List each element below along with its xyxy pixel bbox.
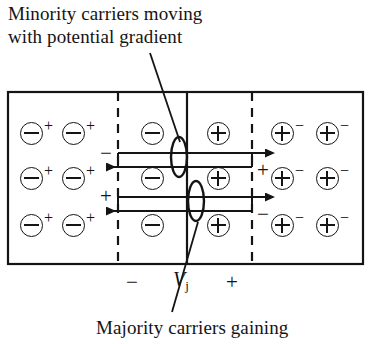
majority-leader-line — [172, 222, 198, 312]
acceptor-ion-r2c2: + — [62, 167, 94, 190]
charge-superscript: + — [86, 121, 95, 131]
bias-minus-label: − — [126, 272, 138, 293]
charge-superscript: − — [295, 121, 304, 131]
junction-voltage-subscript: j — [185, 278, 189, 293]
donor-ion-r2c2: − — [316, 167, 348, 190]
minority-carrier-highlight-ellipse — [171, 137, 187, 177]
charge-superscript: − — [295, 166, 304, 176]
depletion-donor-r3 — [207, 214, 230, 237]
donor-ion-r1c2: − — [316, 122, 348, 145]
circled-plus-icon — [316, 214, 339, 237]
circled-plus-icon — [316, 167, 339, 190]
junction-voltage-label: Vj — [173, 268, 189, 291]
charge-superscript: − — [340, 121, 349, 131]
depletion-donor-r1 — [207, 122, 230, 145]
circled-minus-icon — [62, 214, 85, 237]
donor-ion-r3c1: − — [271, 214, 303, 237]
charge-superscript: + — [44, 121, 53, 131]
circled-minus-icon — [20, 167, 43, 190]
circled-plus-icon — [207, 167, 230, 190]
circled-minus-icon — [141, 122, 164, 145]
depletion-right-plus-sign: + — [257, 160, 269, 181]
circled-plus-icon — [271, 214, 294, 237]
acceptor-ion-r3c1: + — [20, 214, 52, 237]
charge-superscript: − — [340, 166, 349, 176]
acceptor-ion-r3c2: + — [62, 214, 94, 237]
circled-minus-icon — [20, 122, 43, 145]
charge-superscript: + — [86, 166, 95, 176]
junction-voltage-symbol: V — [173, 268, 185, 290]
charge-superscript: − — [295, 213, 304, 223]
depletion-right-minus-sign: − — [257, 204, 269, 225]
depletion-acceptor-r3 — [141, 214, 164, 237]
circled-plus-icon — [271, 167, 294, 190]
acceptor-ion-r1c1: + — [20, 122, 52, 145]
charge-superscript: + — [44, 166, 53, 176]
pn-junction-figure: Minority carriers moving with potential … — [0, 0, 371, 344]
bias-plus-label: + — [226, 272, 238, 293]
depletion-acceptor-r1 — [141, 122, 164, 145]
circled-minus-icon — [62, 167, 85, 190]
circled-minus-icon — [20, 214, 43, 237]
majority-carrier-highlight-ellipse — [188, 181, 204, 221]
donor-ion-r2c1: − — [271, 167, 303, 190]
circled-plus-icon — [316, 122, 339, 145]
circled-minus-icon — [141, 214, 164, 237]
charge-superscript: + — [86, 213, 95, 223]
charge-superscript: − — [340, 213, 349, 223]
circled-plus-icon — [207, 214, 230, 237]
acceptor-ion-r2c1: + — [20, 167, 52, 190]
acceptor-ion-r1c2: + — [62, 122, 94, 145]
circled-plus-icon — [271, 122, 294, 145]
depletion-left-plus-sign: + — [100, 186, 112, 207]
circled-minus-icon — [62, 122, 85, 145]
depletion-donor-r2 — [207, 167, 230, 190]
circled-plus-icon — [207, 122, 230, 145]
depletion-acceptor-r2 — [141, 167, 164, 190]
donor-ion-r3c2: − — [316, 214, 348, 237]
charge-superscript: + — [44, 213, 53, 223]
depletion-left-minus-sign: − — [100, 143, 112, 164]
donor-ion-r1c1: − — [271, 122, 303, 145]
circled-minus-icon — [141, 167, 164, 190]
